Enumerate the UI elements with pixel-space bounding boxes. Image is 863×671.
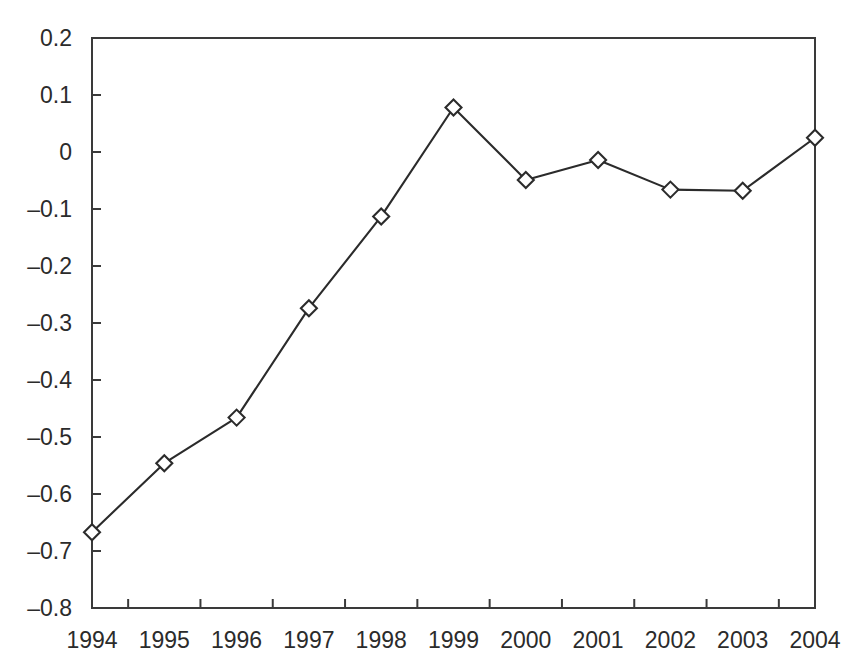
y-tick-label: 0.2 <box>40 25 72 51</box>
y-tick-label: –0.8 <box>27 595 72 621</box>
x-tick-label: 2001 <box>573 627 624 653</box>
data-point-marker <box>735 183 751 199</box>
data-point-marker <box>590 152 606 168</box>
data-series-line <box>92 108 815 533</box>
line-chart-figure: 0.20.10–0.1–0.2–0.3–0.4–0.5–0.6–0.7–0.8 … <box>0 0 863 671</box>
x-tick-label: 1999 <box>428 627 479 653</box>
y-axis-tick-marks <box>92 95 101 551</box>
y-tick-label: –0.2 <box>27 253 72 279</box>
data-point-marker <box>807 130 823 146</box>
data-point-marker <box>229 410 245 426</box>
y-tick-label: –0.6 <box>27 481 72 507</box>
y-tick-label: –0.5 <box>27 424 72 450</box>
x-tick-label: 1994 <box>66 627 117 653</box>
x-tick-label: 2003 <box>717 627 768 653</box>
x-tick-label: 2004 <box>789 627 840 653</box>
x-tick-label: 1998 <box>356 627 407 653</box>
y-tick-label: –0.7 <box>27 538 72 564</box>
y-tick-label: 0 <box>59 139 72 165</box>
y-tick-label: –0.3 <box>27 310 72 336</box>
x-tick-label: 1997 <box>283 627 334 653</box>
data-point-marker <box>662 182 678 198</box>
x-tick-label: 1995 <box>139 627 190 653</box>
x-axis-tick-marks <box>128 599 779 608</box>
plot-area-frame <box>92 38 815 608</box>
y-axis-labels: 0.20.10–0.1–0.2–0.3–0.4–0.5–0.6–0.7–0.8 <box>27 25 72 621</box>
y-tick-label: –0.1 <box>27 196 72 222</box>
x-tick-label: 2002 <box>645 627 696 653</box>
data-point-markers <box>84 100 823 541</box>
x-tick-label: 1996 <box>211 627 262 653</box>
y-tick-label: 0.1 <box>40 82 72 108</box>
chart-canvas: 0.20.10–0.1–0.2–0.3–0.4–0.5–0.6–0.7–0.8 … <box>0 0 863 671</box>
x-axis-labels: 1994199519961997199819992000200120022003… <box>66 627 840 653</box>
y-tick-label: –0.4 <box>27 367 72 393</box>
x-tick-label: 2000 <box>500 627 551 653</box>
